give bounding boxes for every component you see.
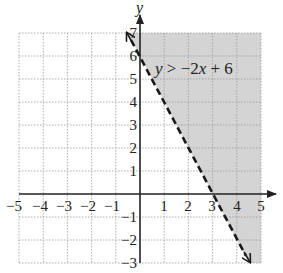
- svg-text:2: 2: [184, 198, 192, 214]
- svg-text:3: 3: [130, 117, 138, 133]
- svg-text:−3: −3: [56, 198, 72, 214]
- inequality-label: y > −2x + 6: [153, 59, 233, 78]
- y-axis-label: y: [134, 0, 144, 17]
- svg-text:−5: −5: [6, 198, 22, 214]
- svg-text:−2: −2: [80, 198, 96, 214]
- y-tick-labels: 1 2 3 4 5 6 7 −1 −2 −3: [121, 25, 137, 271]
- svg-text:−1: −1: [121, 209, 137, 225]
- svg-text:1: 1: [130, 163, 138, 179]
- svg-text:−2: −2: [121, 232, 137, 248]
- svg-text:6: 6: [130, 48, 138, 64]
- svg-text:7: 7: [130, 25, 138, 41]
- svg-text:−4: −4: [32, 198, 48, 214]
- graph-plot: y y > −2x + 6 −5 −4 −3 −2 −1 1 2 3 4 5 1…: [0, 0, 283, 273]
- svg-text:1: 1: [160, 198, 168, 214]
- svg-text:−3: −3: [121, 255, 137, 271]
- svg-text:5: 5: [130, 71, 138, 87]
- svg-text:5: 5: [257, 198, 265, 214]
- svg-text:2: 2: [130, 140, 138, 156]
- svg-text:−1: −1: [104, 198, 120, 214]
- svg-text:4: 4: [233, 198, 241, 214]
- svg-text:4: 4: [130, 94, 138, 110]
- svg-text:3: 3: [208, 198, 216, 214]
